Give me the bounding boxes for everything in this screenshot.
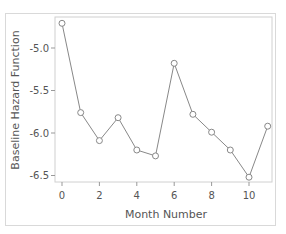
y-axis: -5.0-5.5-6.0-6.5 bbox=[29, 43, 55, 182]
line-chart: -5.0-5.5-6.0-6.5 0246810 Month Number Ba… bbox=[0, 0, 286, 234]
x-tick-label: 6 bbox=[171, 190, 177, 201]
data-point-marker bbox=[78, 110, 84, 116]
x-tick-label: 2 bbox=[96, 190, 102, 201]
data-point-marker bbox=[134, 147, 140, 153]
y-tick-label: -6.0 bbox=[29, 128, 49, 139]
x-axis: 0246810 bbox=[59, 182, 256, 201]
data-point-marker bbox=[115, 115, 121, 121]
data-point-marker bbox=[227, 147, 233, 153]
x-axis-title: Month Number bbox=[125, 208, 208, 221]
plot-area bbox=[55, 17, 272, 182]
y-tick-label: -6.5 bbox=[29, 170, 49, 181]
data-point-marker bbox=[171, 60, 177, 66]
y-tick-label: -5.0 bbox=[29, 43, 49, 54]
y-tick-label: -5.5 bbox=[29, 85, 49, 96]
data-point-marker bbox=[265, 123, 271, 129]
x-tick-label: 10 bbox=[243, 190, 256, 201]
data-point-marker bbox=[209, 129, 215, 135]
data-point-marker bbox=[153, 153, 159, 159]
data-point-marker bbox=[246, 174, 252, 180]
data-point-marker bbox=[96, 138, 102, 144]
x-tick-label: 0 bbox=[59, 190, 65, 201]
y-axis-title: Baseline Hazard Function bbox=[9, 30, 22, 169]
data-point-marker bbox=[59, 20, 65, 26]
x-tick-label: 4 bbox=[134, 190, 140, 201]
data-point-marker bbox=[190, 111, 196, 117]
x-tick-label: 8 bbox=[208, 190, 214, 201]
